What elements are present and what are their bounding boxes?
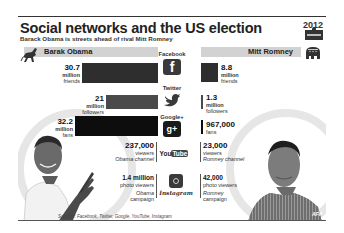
romney-instagram-divider: [200, 174, 201, 198]
obama-instagram-label: 1.4 million photo viewers Obama campaign: [98, 174, 154, 202]
obama-facebook-label: 30.7 million friends: [42, 64, 80, 84]
facebook-label: Facebook: [152, 51, 192, 57]
obama-instagram-divider: [156, 174, 157, 198]
afp-credit: AFP: [312, 211, 322, 217]
instagram-icon: [169, 174, 183, 188]
facebook-icon: f: [163, 59, 181, 75]
page-subtitle: Barack Obama is streets ahead of rival M…: [20, 35, 173, 42]
democrat-donkey-icon: [20, 45, 40, 65]
romney-googleplus-bar: [201, 120, 203, 134]
page-title: Social networks and the US election: [20, 20, 262, 36]
romney-instagram-label: 42,000 photo viewers Romney campaign: [203, 174, 258, 202]
romney-youtube-label: 23,000 viewers Romney channel: [203, 142, 258, 162]
obama-photo: [18, 128, 98, 221]
romney-photo: [246, 137, 326, 221]
romney-twitter-label: 1.3 million followers: [206, 94, 246, 114]
obama-twitter-bar: [106, 95, 158, 109]
obama-youtube-label: 237,000 viewers Obama channel: [104, 142, 154, 162]
romney-googleplus-label: 967,000 fans: [206, 121, 246, 135]
obama-youtube-divider: [156, 142, 157, 162]
romney-youtube-divider: [200, 142, 201, 162]
infographic: Social networks and the US election Bara…: [18, 16, 326, 221]
twitter-bird-icon: [163, 92, 181, 108]
romney-facebook-label: 8.8 million friends: [221, 64, 261, 84]
obama-googleplus-bar: [75, 116, 158, 136]
obama-header: Barak Obama: [24, 47, 158, 57]
capitol-icon: [305, 30, 323, 40]
romney-twitter-bar: [201, 95, 203, 109]
sources-note: Sources: Facebook, Twitter, Google, YouT…: [58, 214, 172, 219]
instagram-label: Instagram: [156, 190, 196, 196]
twitter-label: Twitter: [152, 85, 192, 91]
obama-twitter-label: 21 million followers: [62, 95, 104, 115]
romney-facebook-bar: [201, 63, 218, 82]
obama-facebook-bar: [82, 63, 158, 83]
googleplus-icon: g+: [163, 121, 181, 137]
republican-elephant-icon: [304, 46, 322, 60]
youtube-icon: YouTube: [159, 148, 189, 159]
obama-googleplus-label: 32.2 million fans: [38, 118, 73, 138]
googleplus-label: Google+: [152, 114, 192, 120]
romney-header: Mitt Romney: [201, 47, 301, 57]
